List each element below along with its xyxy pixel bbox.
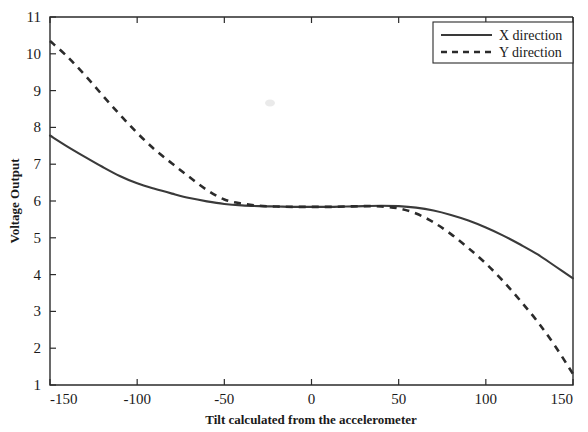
x-axis-title: Tilt calculated from the accelerometer: [205, 412, 417, 427]
legend-label-x-direction: X direction: [499, 28, 562, 43]
x-tick-label: 100: [475, 391, 498, 407]
x-tick-label: 150: [551, 391, 574, 407]
scan-artifact: [265, 100, 275, 107]
legend-label-y-direction: Y direction: [499, 45, 562, 60]
y-tick-label: 9: [34, 83, 42, 99]
y-tick-label: 5: [34, 230, 42, 246]
y-tick-label: 8: [34, 119, 42, 135]
y-tick-label: 11: [27, 9, 41, 25]
x-tick-label: -150: [50, 391, 78, 407]
y-tick-label: 6: [34, 193, 42, 209]
y-axis-tick-labels: 1234567891011: [26, 9, 42, 393]
plot-background: [50, 17, 573, 385]
x-tick-label: -100: [123, 391, 151, 407]
y-tick-label: 10: [26, 46, 41, 62]
y-tick-label: 7: [34, 156, 42, 172]
y-tick-label: 4: [34, 267, 42, 283]
chart-figure: 1234567891011 -150-100-50050100150 X dir…: [0, 0, 588, 432]
y-tick-label: 3: [34, 303, 42, 319]
x-axis-tick-labels: -150-100-50050100150: [50, 391, 573, 407]
y-tick-label: 2: [34, 340, 42, 356]
chart-legend: X direction Y direction: [433, 22, 573, 63]
y-tick-label: 1: [34, 377, 42, 393]
x-tick-label: 50: [391, 391, 406, 407]
x-tick-label: 0: [308, 391, 316, 407]
line-chart: 1234567891011 -150-100-50050100150 X dir…: [0, 0, 588, 432]
y-axis-title: Voltage Output: [7, 158, 22, 244]
x-tick-label: -50: [214, 391, 234, 407]
